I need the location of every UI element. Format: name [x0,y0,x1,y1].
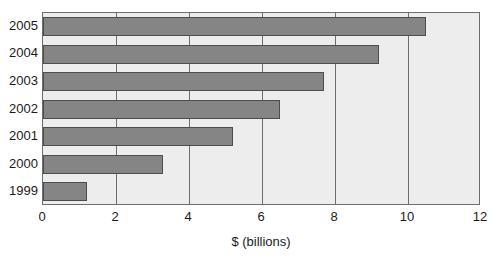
y-axis-label-2000: 2000 [0,157,38,171]
bar-row [43,13,479,41]
bar-row [43,68,479,96]
x-axis-tick-8: 8 [314,209,354,224]
bar-2003 [43,72,324,91]
x-axis-tick-4: 4 [168,209,208,224]
bar-2005 [43,17,426,36]
x-axis-tick-2: 2 [95,209,135,224]
bar-2000 [43,155,163,174]
y-axis-label-1999: 1999 [0,184,38,198]
bar-chart: 2005200420032002200120001999 024681012 $… [0,0,496,260]
y-axis-label-2002: 2002 [0,102,38,116]
bar-row [43,96,479,124]
bar-2004 [43,45,379,64]
bar-2002 [43,100,280,119]
plot-area [42,12,480,205]
y-axis-label-2005: 2005 [0,19,38,33]
bar-row [43,151,479,179]
x-axis-tick-6: 6 [241,209,281,224]
bar-2001 [43,127,233,146]
bar-1999 [43,182,87,201]
bar-row [43,123,479,151]
bar-row [43,41,479,69]
y-axis-label-2001: 2001 [0,129,38,143]
y-axis-label-2003: 2003 [0,74,38,88]
y-axis-category-labels: 2005200420032002200120001999 [0,12,38,205]
x-axis-tick-0: 0 [22,209,62,224]
x-axis-tick-10: 10 [387,209,427,224]
x-axis-tick-12: 12 [460,209,496,224]
x-axis-title: $ (billions) [42,234,480,249]
y-axis-label-2004: 2004 [0,46,38,60]
bar-row [43,178,479,206]
